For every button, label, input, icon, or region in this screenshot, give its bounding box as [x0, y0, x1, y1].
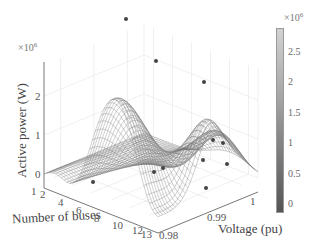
- colorbar-tick-label: 0.5: [288, 169, 301, 179]
- z-tick-label: 2: [35, 91, 41, 102]
- x-tick-label: 13: [141, 229, 152, 240]
- x-tick-label: 2: [40, 189, 46, 200]
- y-axis-label: Voltage (pu): [218, 222, 282, 235]
- data-point: [91, 180, 95, 184]
- z-tick-label: 0: [35, 169, 41, 180]
- z-exponent: ×106: [18, 42, 37, 53]
- colorbar: [276, 28, 284, 213]
- grid-lines: [44, 24, 258, 215]
- data-point: [211, 138, 215, 142]
- data-point: [154, 59, 158, 63]
- data-point: [152, 170, 156, 174]
- colorbar-tick-label: 2.5: [288, 47, 301, 57]
- data-point: [202, 80, 206, 84]
- colorbar-tick-label: 2: [288, 77, 293, 87]
- x-tick-label: 10: [112, 220, 123, 231]
- z-axis-label: Active power (W): [15, 83, 28, 178]
- colorbar-tick-label: 1.5: [288, 108, 301, 118]
- x-tick-label: 4: [58, 197, 64, 208]
- y-tick-label: 0.98: [159, 230, 178, 241]
- data-point: [221, 141, 225, 145]
- colorbar-tick-label: 0: [288, 199, 293, 209]
- y-tick-label: 1: [250, 196, 256, 207]
- colorbar-tick-label: 1: [288, 138, 293, 148]
- data-point: [124, 17, 128, 21]
- data-point: [201, 158, 205, 162]
- data-point: [161, 166, 165, 170]
- x-tick-label: 1: [31, 186, 37, 197]
- z-tick-label: 1: [35, 130, 41, 141]
- colorbar-exponent: ×106: [284, 12, 303, 23]
- data-point: [225, 162, 229, 166]
- data-point: [204, 186, 208, 190]
